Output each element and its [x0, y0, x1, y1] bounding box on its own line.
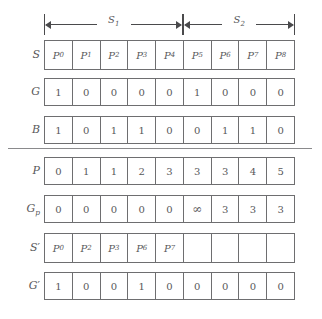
row-label: S	[18, 40, 40, 70]
array-row: P011233345	[0, 157, 322, 185]
array-cell: 1	[44, 116, 72, 144]
arrow-left-icon	[45, 21, 51, 29]
array-cell: 0	[155, 78, 183, 106]
array-cell	[183, 233, 211, 263]
array-cell: 0	[155, 272, 183, 300]
arrow-right-icon	[288, 21, 294, 29]
array-cell: 4	[238, 157, 266, 185]
array-cell: 0	[72, 78, 100, 106]
array-cell: 0	[100, 78, 128, 106]
array-cell: 0	[183, 116, 211, 144]
span-tick-right	[294, 14, 295, 35]
array-cell: P3	[100, 233, 128, 263]
array-cell: P3	[127, 40, 155, 70]
array-cell: P5	[183, 40, 211, 70]
array-cell: 0	[44, 195, 72, 223]
array-cell: 0	[127, 78, 155, 106]
array-row: Gp00000∞333	[0, 195, 322, 223]
array-cell: P0	[44, 40, 72, 70]
array-cell: 3	[266, 195, 295, 223]
array-cell: 0	[183, 272, 211, 300]
array-cell: ∞	[183, 195, 211, 223]
array-cell: 1	[100, 116, 128, 144]
array-cell: P6	[127, 233, 155, 263]
arrow-right-icon	[176, 21, 182, 29]
array-cell: 0	[100, 195, 128, 223]
array-cell: 1	[100, 157, 128, 185]
array-cell: 0	[238, 272, 266, 300]
array-cell: P1	[72, 40, 100, 70]
row-label: P	[18, 157, 40, 185]
row-label: G	[18, 78, 40, 106]
array-cells: P0P2P3P6P7	[44, 233, 295, 263]
arrow-left-icon	[184, 21, 190, 29]
array-cell: P6	[211, 40, 239, 70]
array-cell: 3	[211, 195, 239, 223]
span-bracket-s2: S2	[183, 14, 295, 36]
array-cell	[211, 233, 239, 263]
array-cell: 1	[238, 116, 266, 144]
array-row: SP0P1P2P3P4P5P6P7P8	[0, 40, 322, 70]
array-cell: 0	[72, 272, 100, 300]
array-diagram: S1 S2 SP0P1P2P3P4P5P6P7P8G100001000B1011…	[0, 0, 322, 319]
array-cell: 0	[266, 116, 295, 144]
array-cell: P2	[100, 40, 128, 70]
array-cell: P2	[72, 233, 100, 263]
row-label: B	[18, 116, 40, 144]
row-label: Gp	[18, 195, 40, 223]
row-label: S′	[18, 233, 40, 263]
array-cell: 0	[72, 116, 100, 144]
array-row: G′100100000	[0, 272, 322, 300]
array-cell: 3	[183, 157, 211, 185]
array-cells: P0P1P2P3P4P5P6P7P8	[44, 40, 295, 70]
array-cell: 0	[127, 195, 155, 223]
array-row: G100001000	[0, 78, 322, 106]
array-cell: 0	[72, 195, 100, 223]
span-label-s1: S1	[97, 14, 131, 30]
array-cells: 101100110	[44, 116, 295, 144]
array-cell: 0	[266, 272, 295, 300]
array-cells: 00000∞333	[44, 195, 295, 223]
array-row: S′P0P2P3P6P7	[0, 233, 322, 263]
array-cell: P4	[155, 40, 183, 70]
array-cell: P7	[155, 233, 183, 263]
array-cell: 0	[211, 272, 239, 300]
row-label: G′	[18, 272, 40, 300]
span-bracket-s1: S1	[44, 14, 183, 36]
array-cell: 2	[127, 157, 155, 185]
array-cell: P0	[44, 233, 72, 263]
array-cell: 1	[72, 157, 100, 185]
array-cell: P7	[238, 40, 266, 70]
array-cell: 0	[100, 272, 128, 300]
array-cell: 0	[44, 157, 72, 185]
span-bracket-row: S1 S2	[44, 14, 295, 36]
array-cell: 0	[155, 195, 183, 223]
array-cell: 3	[155, 157, 183, 185]
array-cell: 1	[211, 116, 239, 144]
array-cell: 3	[238, 195, 266, 223]
array-cell: 5	[266, 157, 295, 185]
array-cell: 1	[44, 272, 72, 300]
array-cell: 0	[238, 78, 266, 106]
array-cell: 0	[266, 78, 295, 106]
array-cell: 1	[183, 78, 211, 106]
array-cell: 0	[211, 78, 239, 106]
array-cell	[238, 233, 266, 263]
array-row: B101100110	[0, 116, 322, 144]
span-label-s2: S2	[222, 14, 256, 30]
array-cell	[266, 233, 295, 263]
array-cell: 1	[127, 272, 155, 300]
array-cells: 011233345	[44, 157, 295, 185]
section-divider	[8, 148, 312, 149]
array-cell: P8	[266, 40, 295, 70]
array-cell: 1	[44, 78, 72, 106]
array-cells: 100100000	[44, 272, 295, 300]
array-cell: 0	[155, 116, 183, 144]
array-cells: 100001000	[44, 78, 295, 106]
array-cell: 3	[211, 157, 239, 185]
array-cell: 1	[127, 116, 155, 144]
